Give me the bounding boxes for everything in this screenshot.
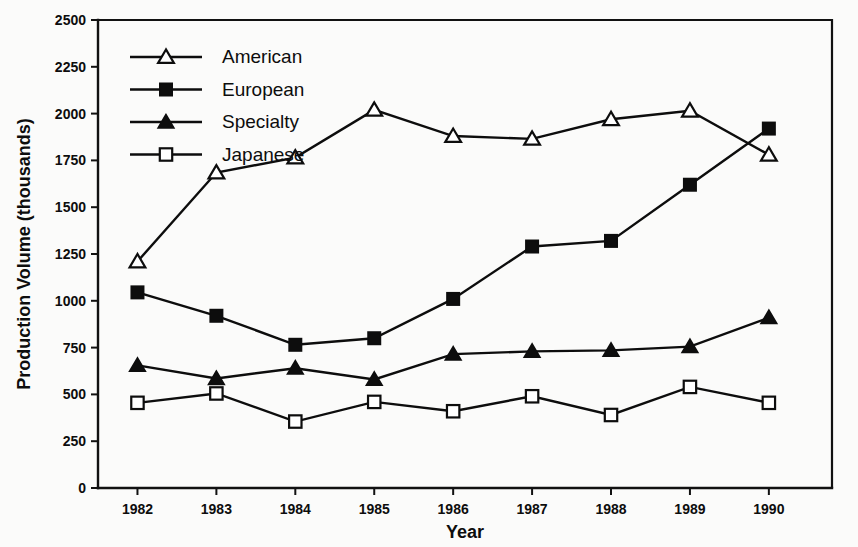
x-tick-label: 1990 [753, 501, 784, 517]
x-tick-label: 1988 [595, 501, 626, 517]
legend-label: Specialty [222, 111, 300, 132]
y-tick-label: 1500 [55, 199, 86, 215]
data-point-marker [368, 332, 380, 344]
data-point-marker [684, 381, 696, 393]
x-tick-label: 1986 [438, 501, 469, 517]
data-point-marker [526, 240, 538, 252]
x-tick-label: 1987 [517, 501, 548, 517]
y-tick-label: 1250 [55, 246, 86, 262]
data-point-marker [210, 387, 222, 399]
x-axis-title: Year [446, 522, 484, 542]
y-tick-label: 1750 [55, 152, 86, 168]
legend-entry[interactable]: American [130, 46, 302, 67]
data-point-marker [763, 397, 775, 409]
data-point-marker [287, 361, 303, 374]
y-tick-label: 1000 [55, 293, 86, 309]
y-tick-label: 2250 [55, 59, 86, 75]
chart-canvas: 02505007501000125015001750200022502500 1… [0, 0, 858, 547]
y-axis-title: Production Volume (thousands) [14, 118, 34, 390]
data-point-marker [682, 103, 698, 116]
y-tick-label: 750 [63, 340, 87, 356]
data-point-marker [761, 310, 777, 323]
x-tick-label: 1984 [280, 501, 311, 517]
data-point-marker [131, 286, 143, 298]
line-chart-figure: 02505007501000125015001750200022502500 1… [0, 0, 858, 547]
y-tick-label: 0 [78, 480, 86, 496]
data-point-marker [605, 235, 617, 247]
data-point-marker [289, 339, 301, 351]
x-tick-label: 1989 [674, 501, 705, 517]
chart-series [131, 381, 775, 428]
x-tick-label: 1983 [201, 501, 232, 517]
legend-label: Japanese [222, 144, 304, 165]
chart-legend: AmericanEuropeanSpecialtyJapanese [130, 46, 304, 165]
legend-label: European [222, 79, 304, 100]
chart-series [130, 310, 777, 385]
data-point-marker [526, 390, 538, 402]
data-point-marker [447, 293, 459, 305]
data-point-marker [289, 415, 301, 427]
x-axis-ticks: 198219831984198519861987198819891990 [122, 488, 785, 517]
x-tick-label: 1982 [122, 501, 153, 517]
legend-label: American [222, 46, 302, 67]
legend-marker-icon [160, 148, 172, 160]
data-point-marker [605, 409, 617, 421]
data-point-marker [366, 102, 382, 115]
y-tick-label: 2000 [55, 106, 86, 122]
data-point-marker [684, 179, 696, 191]
legend-marker-icon [160, 83, 172, 95]
data-point-marker [368, 396, 380, 408]
y-tick-label: 250 [63, 433, 87, 449]
y-tick-label: 2500 [55, 12, 86, 28]
data-point-marker [763, 122, 775, 134]
x-tick-label: 1985 [359, 501, 390, 517]
data-point-marker [131, 397, 143, 409]
plot-frame [98, 20, 832, 488]
data-point-marker [130, 358, 146, 371]
legend-entry[interactable]: European [130, 79, 304, 100]
legend-entry[interactable]: Specialty [130, 111, 300, 132]
y-axis-ticks: 02505007501000125015001750200022502500 [55, 12, 98, 496]
legend-entry[interactable]: Japanese [130, 144, 304, 165]
data-point-marker [761, 147, 777, 160]
y-tick-label: 500 [63, 386, 87, 402]
data-point-marker [447, 405, 459, 417]
data-point-marker [210, 310, 222, 322]
